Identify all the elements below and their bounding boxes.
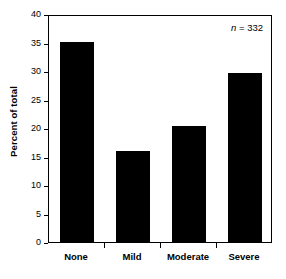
sample-size-annotation: n = 332 [231, 22, 263, 33]
y-axis-tick-label: 0 [36, 237, 41, 248]
bar [172, 126, 206, 242]
y-axis: 0510152025303540 [0, 0, 48, 279]
y-axis-tick-label: 25 [31, 95, 41, 106]
x-axis-tick-label: Moderate [167, 251, 209, 262]
x-axis: NoneMildModerateSevere [48, 243, 272, 279]
y-axis-tick-label: 30 [31, 66, 41, 77]
sample-size-equals: = [236, 22, 247, 33]
bar [228, 73, 262, 242]
y-axis-tick-label: 5 [36, 209, 41, 220]
y-axis-tick-label: 35 [31, 38, 41, 49]
bar-chart-figure: Percent of total 0510152025303540 n = 33… [0, 0, 286, 279]
x-axis-tick-mark [216, 243, 217, 248]
y-axis-tick-label: 40 [31, 9, 41, 20]
x-axis-tick-label: None [64, 251, 88, 262]
x-axis-tick-mark [160, 243, 161, 248]
x-axis-tick-mark [104, 243, 105, 248]
sample-size-value: 332 [247, 22, 263, 33]
bars-layer [49, 16, 271, 242]
y-axis-tick-label: 20 [31, 123, 41, 134]
x-axis-tick-label: Severe [228, 251, 259, 262]
y-axis-tick-label: 10 [31, 180, 41, 191]
plot-area: n = 332 [48, 15, 272, 243]
y-axis-tick-label: 15 [31, 152, 41, 163]
bar [116, 151, 150, 242]
x-axis-tick-label: Mild [123, 251, 142, 262]
bar [60, 42, 94, 242]
